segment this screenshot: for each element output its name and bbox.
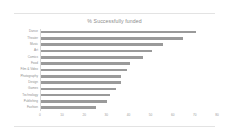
value-tick-label: 70 <box>193 113 197 117</box>
top-divider-rule <box>14 13 215 14</box>
value-tick-label: 60 <box>171 113 175 117</box>
bars-region <box>40 29 218 111</box>
category-axis: Dance Theater Music Art Comics Food Film… <box>12 29 40 111</box>
value-tick-label: 10 <box>60 113 64 117</box>
value-tick-label: 20 <box>82 113 86 117</box>
category-tick-label: Fashion <box>12 105 40 111</box>
bar[interactable] <box>41 94 110 97</box>
bar[interactable] <box>41 37 183 40</box>
slide-canvas: % Successfully funded Dance Theater Musi… <box>0 0 229 136</box>
value-axis: 0 10 20 30 40 50 60 70 80 <box>40 111 217 121</box>
value-tick-label: 80 <box>215 113 219 117</box>
bar[interactable] <box>41 56 143 59</box>
value-tick-label: 50 <box>149 113 153 117</box>
bar[interactable] <box>41 31 196 34</box>
bar[interactable] <box>41 69 127 72</box>
bar[interactable] <box>41 43 163 46</box>
value-tick-label: 0 <box>39 113 41 117</box>
bar[interactable] <box>41 88 116 91</box>
bar[interactable] <box>41 106 96 109</box>
chart-title: % Successfully funded <box>0 18 229 25</box>
bottom-divider-rule <box>14 126 215 127</box>
bar-row <box>41 105 218 111</box>
bar[interactable] <box>41 50 152 53</box>
bar[interactable] <box>41 62 130 65</box>
plot-area: Dance Theater Music Art Comics Food Film… <box>12 29 217 111</box>
value-tick-label: 40 <box>127 113 131 117</box>
value-tick-label: 30 <box>105 113 109 117</box>
bar[interactable] <box>41 81 121 84</box>
bar[interactable] <box>41 100 107 103</box>
bar[interactable] <box>41 75 121 78</box>
